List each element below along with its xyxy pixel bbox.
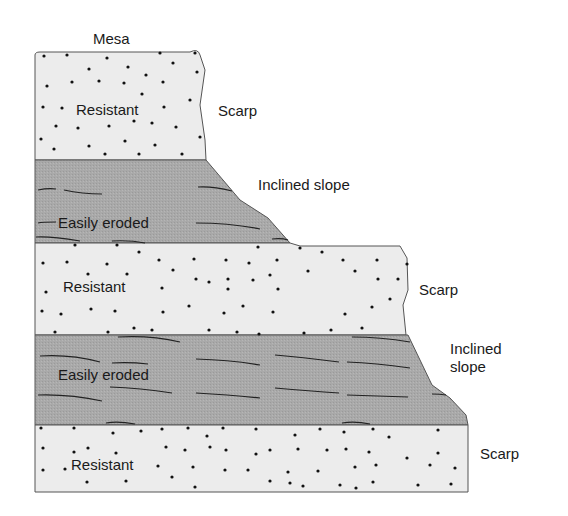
layer-4-label: Easily eroded	[58, 366, 149, 383]
layer-2-label: Easily eroded	[58, 214, 149, 231]
layer-5-label: Resistant	[71, 456, 134, 473]
layer-5-side-label: Scarp	[480, 445, 519, 462]
layer-2-side-label: Inclined slope	[258, 176, 350, 193]
layer-3-label: Resistant	[63, 278, 126, 295]
layer-4-side-label-line1: Inclined	[450, 340, 502, 357]
mesa-cross-section-diagram: Mesa Resistant Scarp Easily eroded Incli…	[0, 0, 568, 516]
layer-1-label: Resistant	[76, 101, 139, 118]
layer-1-side-label: Scarp	[218, 102, 257, 119]
layer-4-side-label-line2: slope	[450, 358, 486, 375]
layer-3-side-label: Scarp	[419, 281, 458, 298]
mesa-label: Mesa	[93, 30, 130, 47]
